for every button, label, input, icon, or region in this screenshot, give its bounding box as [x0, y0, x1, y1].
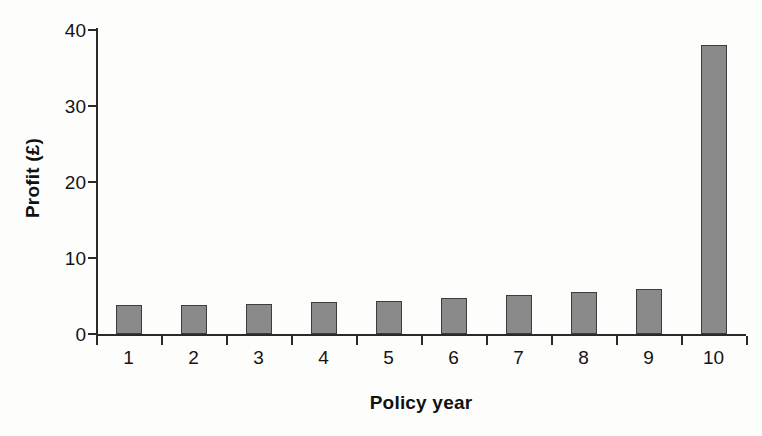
x-tick-label: 8 [578, 348, 589, 367]
bar [701, 45, 727, 334]
bar [376, 301, 402, 334]
bar [441, 298, 467, 334]
bar [311, 302, 337, 334]
y-tick-mark [88, 257, 96, 259]
x-axis-tick-labels: 12345678910 [96, 348, 746, 376]
y-tick-label: 30 [40, 97, 86, 116]
y-tick-label: 20 [40, 173, 86, 192]
x-tick-mark [291, 336, 293, 345]
x-tick-mark [681, 336, 683, 345]
x-tick-label: 10 [703, 348, 724, 367]
x-tick-label: 2 [188, 348, 199, 367]
x-tick-label: 1 [123, 348, 134, 367]
y-tick-mark [88, 181, 96, 183]
x-tick-mark [226, 336, 228, 345]
x-tick-mark [616, 336, 618, 345]
x-tick-label: 5 [383, 348, 394, 367]
y-tick-mark [88, 333, 96, 335]
bar [636, 289, 662, 334]
x-axis-title: Policy year [96, 392, 746, 414]
x-tick-mark [486, 336, 488, 345]
x-tick-label: 9 [643, 348, 654, 367]
x-tick-label: 7 [513, 348, 524, 367]
y-tick-label: 10 [40, 249, 86, 268]
y-axis-tick-labels: 010203040 [40, 0, 86, 360]
x-tick-mark [421, 336, 423, 345]
y-axis-line [96, 28, 98, 336]
x-tick-label: 3 [253, 348, 264, 367]
x-tick-mark [161, 336, 163, 345]
bar-chart-figure: Profit (£) 010203040 12345678910 Policy … [0, 0, 762, 436]
bar [181, 305, 207, 334]
bar [506, 295, 532, 334]
bar [571, 292, 597, 334]
y-tick-label: 0 [40, 325, 86, 344]
x-tick-mark [551, 336, 553, 345]
bar [246, 304, 272, 334]
x-tick-label: 6 [448, 348, 459, 367]
y-tick-mark [88, 29, 96, 31]
x-tick-mark [96, 336, 98, 345]
x-tick-label: 4 [318, 348, 329, 367]
plot-area [96, 28, 746, 336]
bar [116, 305, 142, 334]
y-tick-label: 40 [40, 21, 86, 40]
x-tick-mark [746, 336, 748, 345]
x-tick-mark [356, 336, 358, 345]
y-tick-mark [88, 105, 96, 107]
